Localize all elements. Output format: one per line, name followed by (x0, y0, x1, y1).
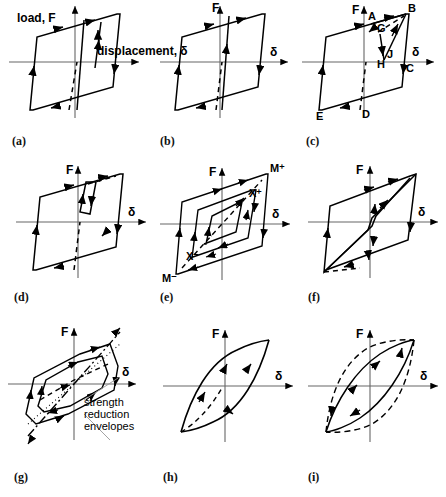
axis-label-F-e: F (209, 165, 216, 179)
panel-c: F δ A B C D E G H J (296, 0, 446, 130)
note-envelopes: envelopes (84, 420, 135, 432)
axis-label-F-h: F (212, 327, 219, 341)
panel-label-d: (d) (14, 290, 29, 305)
axis-label-F-g: F (61, 325, 68, 339)
point-label-d: D (362, 108, 370, 120)
axis-label-delta-e: δ (272, 207, 279, 221)
point-label-j: J (387, 48, 393, 60)
panel-h: F δ (155, 320, 301, 460)
panel-label-e: (e) (160, 290, 173, 305)
point-label-x-plus: X⁺ (249, 187, 262, 199)
point-label-b: B (408, 2, 416, 14)
panel-f: F δ (300, 160, 446, 288)
panel-d: F δ (8, 160, 154, 288)
panel-a: load, F displacement, δ (0, 0, 150, 130)
panel-g: F δ strength reduction envelopes (2, 318, 152, 460)
panel-label-i: (i) (308, 470, 319, 485)
axis-label-F-c: F (352, 3, 359, 17)
axis-label-F-d: F (66, 163, 73, 177)
axis-label-F-i: F (356, 327, 363, 341)
point-label-h: H (377, 58, 385, 70)
point-label-m-minus: M⁻ (162, 272, 177, 284)
panel-label-h: (h) (163, 470, 178, 485)
axis-label-delta-g: δ (122, 365, 129, 379)
point-label-m-plus: M⁺ (270, 162, 285, 174)
axis-label-delta-b: δ (270, 45, 277, 59)
axis-label-delta-f: δ (418, 205, 425, 219)
axis-label-delta-d: δ (128, 205, 135, 219)
axis-label-delta-i: δ (420, 369, 427, 383)
note-strength: strength (84, 396, 124, 408)
note-reduction: reduction (84, 408, 129, 420)
point-label-a: A (368, 10, 376, 22)
panel-i: F δ (300, 320, 446, 460)
figure-canvas: load, F displacement, δ (a) (0, 0, 446, 497)
direction-arrows-b (178, 18, 260, 108)
panel-label-g: (g) (14, 470, 28, 485)
panel-e: F δ M⁺ M⁻ X⁺ X⁻ (152, 160, 298, 288)
axis-label-load: load, F (17, 11, 56, 25)
axis-label-F-b: F (212, 1, 219, 15)
point-label-e: E (316, 110, 323, 122)
axis-label-F-f: F (356, 163, 363, 177)
point-label-c: C (406, 62, 414, 74)
axis-label-delta-h: δ (275, 369, 282, 383)
panel-label-f: (f) (308, 290, 320, 305)
panel-label-b: (b) (160, 134, 175, 149)
axes-d (16, 166, 146, 278)
axes-c (302, 6, 434, 118)
axis-label-delta-c: δ (412, 45, 419, 59)
panel-label-c: (c) (306, 134, 319, 149)
direction-arrows-a (33, 20, 115, 108)
point-label-x-minus: X⁻ (186, 250, 199, 262)
panel-label-a: (a) (12, 134, 26, 149)
panel-b: F δ (150, 0, 296, 130)
point-label-g: G (377, 22, 386, 34)
